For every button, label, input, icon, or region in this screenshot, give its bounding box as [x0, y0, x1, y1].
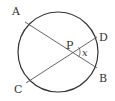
label-p: P	[66, 39, 74, 52]
label-d: D	[99, 31, 108, 44]
chord-ab	[25, 22, 97, 68]
label-a: A	[11, 5, 21, 18]
diagram-canvas: A D P x B C	[0, 0, 115, 101]
angle-label-x: x	[82, 47, 88, 58]
chord-cd	[26, 37, 97, 83]
label-b: B	[99, 72, 107, 85]
label-c: C	[14, 83, 22, 96]
